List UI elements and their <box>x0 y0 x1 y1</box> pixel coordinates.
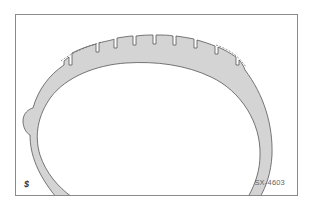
figure-id-label: SX-4603 <box>254 178 285 187</box>
publisher-logo: $ <box>24 179 29 189</box>
diagram-frame: $ SX-4603 <box>15 14 298 196</box>
tire-diagram <box>16 15 298 196</box>
tire-body <box>23 35 272 196</box>
